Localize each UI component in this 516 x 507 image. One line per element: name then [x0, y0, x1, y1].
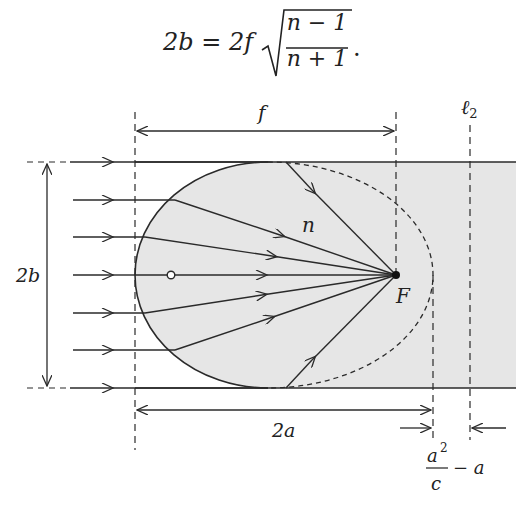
- label-n: n: [302, 213, 315, 237]
- label-2a: 2a: [271, 419, 295, 441]
- svg-text:a: a: [427, 445, 438, 466]
- lens-diagram: 2b f ℓ2 2a a 2 c − a: [0, 0, 516, 507]
- label-F: F: [395, 284, 411, 308]
- focus-point: [392, 271, 400, 279]
- svg-text:2: 2: [440, 441, 448, 455]
- label-2b: 2b: [15, 264, 40, 286]
- ellipse-center-marker: [167, 271, 175, 279]
- label-a2-over-c-minus-a: a 2 c − a: [426, 441, 485, 494]
- svg-text:c: c: [431, 473, 441, 494]
- label-f: f: [256, 101, 269, 125]
- label-ell2: ℓ2: [461, 95, 478, 121]
- svg-text:− a: − a: [453, 457, 485, 478]
